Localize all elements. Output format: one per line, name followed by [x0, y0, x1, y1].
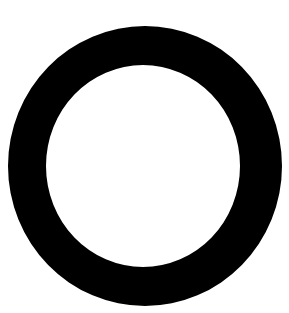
- ring-icon: [0, 0, 289, 313]
- ring-shape: [8, 26, 282, 306]
- canvas: [0, 0, 289, 313]
